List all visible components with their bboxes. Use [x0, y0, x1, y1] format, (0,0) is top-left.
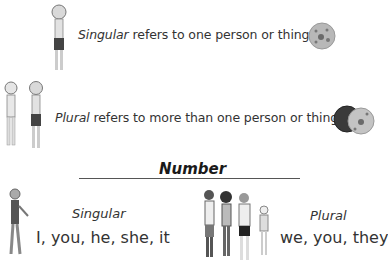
singular-term: Singular — [78, 27, 129, 42]
group-figures-plural — [202, 188, 274, 268]
title-underline — [79, 178, 300, 179]
section-title: Number — [159, 160, 226, 178]
woman-figure-singular — [6, 188, 30, 260]
balls-icon — [333, 104, 375, 136]
plural-term: Plural — [55, 110, 90, 125]
boy-figure-plural — [25, 80, 47, 152]
plural-label: Plural — [310, 208, 347, 223]
singular-definition: Singular refers to one person or thing. — [78, 27, 313, 42]
singular-pronouns: I, you, he, she, it — [36, 228, 170, 247]
plural-pronouns: we, you, they — [280, 228, 388, 247]
singular-definition-text: refers to one person or thing. — [129, 27, 314, 42]
plural-definition: Plural refers to more than one person or… — [55, 110, 342, 125]
singular-label: Singular — [72, 206, 126, 221]
ball-icon — [308, 22, 336, 50]
girl-figure-plural — [0, 80, 22, 150]
plural-definition-text: refers to more than one person or thing. — [90, 110, 342, 125]
boy-figure-singular — [46, 4, 72, 74]
